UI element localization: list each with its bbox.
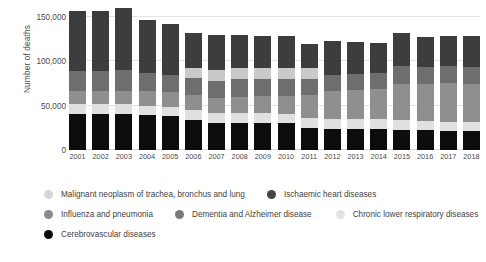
bar-segment[interactable] (185, 68, 202, 79)
bar-segment[interactable] (347, 119, 364, 129)
legend-item[interactable]: Chronic lower respiratory diseases (336, 210, 479, 219)
bar-segment[interactable] (185, 78, 202, 95)
bar-segment[interactable] (370, 119, 387, 129)
legend-item[interactable]: Dementia and Alzheimer disease (175, 210, 312, 219)
bar-segment[interactable] (185, 110, 202, 120)
bar-segment[interactable] (254, 36, 271, 68)
bar-segment[interactable] (69, 104, 86, 114)
bar-segment[interactable] (393, 33, 410, 66)
bar-segment[interactable] (347, 129, 364, 150)
bar-segment[interactable] (231, 97, 248, 113)
bar-segment[interactable] (208, 81, 225, 98)
bar-column[interactable] (254, 8, 271, 150)
bar-segment[interactable] (139, 73, 156, 92)
bar-segment[interactable] (185, 95, 202, 110)
bar-segment[interactable] (208, 70, 225, 81)
bar-column[interactable] (393, 8, 410, 150)
bar-segment[interactable] (278, 79, 295, 96)
bar-segment[interactable] (92, 71, 109, 91)
bar-segment[interactable] (254, 123, 271, 151)
bar-column[interactable] (324, 8, 341, 150)
bar-segment[interactable] (347, 42, 364, 74)
bar-segment[interactable] (324, 119, 341, 129)
bar-segment[interactable] (440, 131, 457, 150)
bar-column[interactable] (231, 8, 248, 150)
bar-segment[interactable] (115, 91, 132, 104)
bar-segment[interactable] (417, 67, 434, 85)
bar-segment[interactable] (393, 66, 410, 85)
bar-segment[interactable] (324, 41, 341, 76)
bar-segment[interactable] (185, 120, 202, 150)
bar-segment[interactable] (162, 24, 179, 75)
bar-segment[interactable] (92, 104, 109, 114)
bar-segment[interactable] (278, 114, 295, 124)
bar-segment[interactable] (278, 36, 295, 69)
bar-segment[interactable] (69, 71, 86, 91)
bar-segment[interactable] (278, 123, 295, 150)
bar-segment[interactable] (139, 20, 156, 72)
bar-segment[interactable] (92, 91, 109, 104)
bar-segment[interactable] (463, 84, 480, 121)
bar-column[interactable] (69, 8, 86, 150)
bar-segment[interactable] (208, 123, 225, 151)
bar-segment[interactable] (347, 74, 364, 90)
bar-segment[interactable] (208, 113, 225, 123)
bar-segment[interactable] (301, 118, 318, 128)
bar-column[interactable] (347, 8, 364, 150)
bar-segment[interactable] (440, 122, 457, 132)
bar-segment[interactable] (162, 107, 179, 117)
bar-segment[interactable] (393, 130, 410, 150)
legend-item[interactable]: Malignant neoplasm of trachea, bronchus … (44, 190, 245, 199)
bar-segment[interactable] (417, 130, 434, 150)
bar-column[interactable] (440, 8, 457, 150)
bar-segment[interactable] (301, 128, 318, 150)
bar-segment[interactable] (463, 131, 480, 150)
bar-segment[interactable] (254, 113, 271, 123)
bar-segment[interactable] (301, 68, 318, 79)
bar-segment[interactable] (162, 92, 179, 106)
bar-segment[interactable] (254, 68, 271, 79)
bar-segment[interactable] (208, 98, 225, 113)
bar-segment[interactable] (92, 114, 109, 150)
legend-item[interactable]: Cerebrovascular diseases (44, 230, 156, 239)
bar-column[interactable] (139, 8, 156, 150)
bar-segment[interactable] (254, 79, 271, 96)
bar-segment[interactable] (231, 79, 248, 97)
bar-segment[interactable] (393, 84, 410, 120)
bar-segment[interactable] (139, 115, 156, 150)
bar-segment[interactable] (370, 89, 387, 119)
bar-segment[interactable] (69, 91, 86, 104)
bar-column[interactable] (115, 8, 132, 150)
bar-segment[interactable] (417, 121, 434, 131)
bar-segment[interactable] (440, 36, 457, 66)
bar-segment[interactable] (115, 114, 132, 150)
legend-item[interactable]: Influenza and pneumonia (44, 210, 153, 219)
bar-column[interactable] (417, 8, 434, 150)
bar-segment[interactable] (370, 73, 387, 89)
bar-segment[interactable] (393, 120, 410, 130)
bar-segment[interactable] (347, 90, 364, 119)
legend-item[interactable]: Ischaemic heart diseases (267, 190, 376, 199)
bar-segment[interactable] (463, 122, 480, 132)
bar-segment[interactable] (301, 79, 318, 95)
bar-segment[interactable] (139, 91, 156, 105)
bar-segment[interactable] (324, 129, 341, 150)
bar-segment[interactable] (208, 35, 225, 71)
bar-segment[interactable] (162, 116, 179, 150)
bar-segment[interactable] (69, 114, 86, 150)
bar-segment[interactable] (92, 11, 109, 71)
bar-column[interactable] (92, 8, 109, 150)
bar-segment[interactable] (231, 68, 248, 79)
bar-segment[interactable] (417, 84, 434, 120)
bar-segment[interactable] (69, 11, 86, 71)
bar-segment[interactable] (370, 129, 387, 150)
bar-column[interactable] (278, 8, 295, 150)
bar-segment[interactable] (463, 67, 480, 85)
bar-segment[interactable] (115, 8, 132, 70)
bar-segment[interactable] (440, 66, 457, 84)
bar-segment[interactable] (254, 96, 271, 113)
bar-column[interactable] (185, 8, 202, 150)
bar-segment[interactable] (301, 44, 318, 69)
bar-segment[interactable] (301, 95, 318, 118)
bar-segment[interactable] (278, 68, 295, 79)
